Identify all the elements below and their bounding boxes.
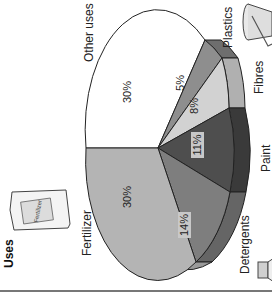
pct-detergents: 14% [178, 214, 190, 236]
label-fibres: Fibres [252, 61, 266, 94]
divider [0, 290, 272, 292]
pct-paint: 11% [191, 134, 203, 155]
label-plastics: Plastics [221, 7, 235, 48]
label-fertilizer: Fertilizer [80, 210, 94, 256]
pct-plastics: 5% [174, 75, 186, 91]
detergent-bottle-icon [258, 258, 272, 282]
pie-face [85, 10, 234, 281]
plastic-bucket-icon [243, 4, 272, 46]
label-paint: Paint [259, 145, 272, 172]
label-detergents: Detergents [238, 215, 252, 274]
chart-title: Uses [2, 239, 16, 268]
pct-fibres: 8% [188, 98, 200, 114]
pct-other-uses: 30% [121, 81, 133, 103]
label-other-uses: Other uses [82, 3, 96, 62]
pct-fertilizer: 30% [121, 186, 133, 208]
fertilizer-bag-icon: Fertilizer [10, 190, 70, 230]
